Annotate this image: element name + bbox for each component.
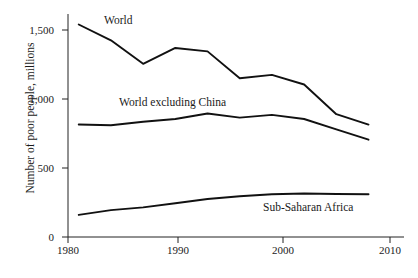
series-line-sub-saharan-africa — [79, 194, 369, 215]
data-series-group — [79, 24, 369, 214]
series-line-world — [79, 24, 369, 124]
axes — [62, 14, 404, 243]
chart-figure: Number of poor people, millions 1,500 1,… — [0, 0, 418, 278]
series-line-world-excluding-china — [79, 113, 369, 139]
plot-area — [0, 0, 418, 278]
